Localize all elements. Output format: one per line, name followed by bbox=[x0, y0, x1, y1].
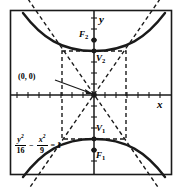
equation-term-2-denominator: 9 bbox=[39, 146, 45, 155]
hyperbola-equation: y2 16 − x2 9 = 1 bbox=[14, 136, 61, 155]
focus-upper-label-sub: 2 bbox=[85, 33, 88, 40]
origin-label: (0, 0) bbox=[18, 73, 35, 81]
hyperbola-figure: y x (0, 0) F2 V2 V1 F1 y2 16 − x2 9 = 1 bbox=[0, 0, 182, 188]
focus-upper-label: F2 bbox=[79, 30, 88, 39]
vertex-lower-point bbox=[92, 137, 97, 142]
focus-upper-point bbox=[91, 37, 96, 42]
hyperbola-graphic bbox=[0, 0, 182, 188]
vertex-upper-label-sub: 2 bbox=[102, 57, 105, 64]
vertex-upper-label: V2 bbox=[96, 54, 105, 63]
equation-term-2: x2 9 bbox=[37, 136, 48, 155]
equation-term-1: y2 16 bbox=[15, 136, 26, 155]
equation-term-1-exponent: 2 bbox=[21, 133, 24, 139]
vertex-lower-label-sub: 1 bbox=[102, 127, 105, 134]
y-axis-label: y bbox=[99, 14, 104, 25]
equation-equals: = 1 bbox=[51, 141, 62, 150]
equation-term-1-numerator: y2 bbox=[16, 136, 24, 145]
x-axis-label: x bbox=[157, 99, 163, 110]
vertex-lower-label: V1 bbox=[96, 124, 105, 133]
focus-lower-label-sub: 1 bbox=[102, 154, 105, 161]
equation-term-2-numerator: x2 bbox=[38, 136, 47, 145]
focus-lower-label: F1 bbox=[96, 151, 105, 160]
equation-term-2-exponent: 2 bbox=[43, 133, 46, 139]
equation-term-1-denominator: 16 bbox=[16, 146, 26, 155]
equation-operator: − bbox=[29, 141, 34, 150]
